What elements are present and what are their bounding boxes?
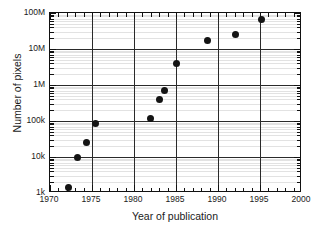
data-point	[258, 16, 265, 23]
data-point	[232, 31, 239, 38]
chart-figure: 1970197519801985199019952000 1k10k100k1M…	[0, 0, 315, 233]
data-point	[83, 139, 90, 146]
data-point	[74, 154, 81, 161]
data-point-layer	[50, 13, 300, 191]
y-axis-tick-label: 10M	[28, 43, 45, 53]
x-axis-title: Year of publication	[49, 210, 301, 222]
y-axis-tick-label: 1M	[33, 79, 45, 89]
y-axis-tick-label: 10k	[31, 151, 45, 161]
data-point	[65, 184, 72, 191]
y-axis-tick-label: 100M	[24, 7, 45, 17]
x-axis-tick-label: 2000	[292, 194, 311, 204]
y-axis-tick-label: 100k	[27, 115, 45, 125]
x-axis-tick-label: 1985	[166, 194, 185, 204]
x-axis-tick-label: 1990	[208, 194, 227, 204]
plot-area	[49, 12, 301, 192]
x-axis-tick-label: 1980	[124, 194, 143, 204]
data-point	[147, 115, 154, 122]
data-point	[92, 120, 99, 127]
y-axis-tick-label: 1k	[36, 187, 45, 197]
x-axis-tick-label: 1995	[250, 194, 269, 204]
y-axis-title: Number of pixels	[11, 3, 23, 183]
data-point	[156, 96, 163, 103]
data-point	[204, 37, 211, 44]
x-axis-tick-label: 1975	[82, 194, 101, 204]
data-point	[161, 87, 168, 94]
data-point	[173, 60, 180, 67]
